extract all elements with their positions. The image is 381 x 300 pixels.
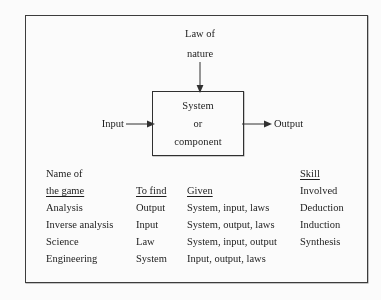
- system-or-component-box: System or component: [152, 91, 244, 156]
- output-arrow-right-icon: [242, 116, 274, 132]
- table-header-row-1: Name of Skill: [46, 165, 356, 182]
- table-row: Science Law System, input, output Synthe…: [46, 233, 356, 250]
- system-box-line-1: System: [153, 100, 243, 111]
- cell-to-find: Output: [136, 199, 165, 216]
- cell-to-find: Law: [136, 233, 155, 250]
- cell-given: Input, output, laws: [187, 250, 266, 267]
- header-to-find: To find: [136, 182, 166, 199]
- cell-given: System, output, laws: [187, 216, 275, 233]
- table-row: Inverse analysis Input System, output, l…: [46, 216, 356, 233]
- cell-skill-involved: Synthesis: [300, 233, 340, 250]
- cell-name-of-the-game: Science: [46, 233, 79, 250]
- cell-to-find: Input: [136, 216, 158, 233]
- law-of-nature-label: Law of nature: [160, 24, 240, 64]
- cell-name-of-the-game: Engineering: [46, 250, 97, 267]
- cell-skill-involved: Induction: [300, 216, 340, 233]
- classification-table: Name of Skill the game To find Given Inv…: [46, 165, 356, 267]
- figure-page: Law of nature Input System or component …: [0, 0, 381, 300]
- header-skill-involved-line-1: Skill: [300, 165, 320, 182]
- header-skill-involved-line-2: Involved: [300, 182, 337, 199]
- input-label: Input: [88, 118, 124, 129]
- cell-given: System, input, output: [187, 233, 277, 250]
- header-name-of-the-game-line-2: the game: [46, 182, 84, 199]
- table-header-row-2: the game To find Given Involved: [46, 182, 356, 199]
- table-row: Analysis Output System, input, laws Dedu…: [46, 199, 356, 216]
- system-box-line-3: component: [153, 136, 243, 147]
- cell-name-of-the-game: Inverse analysis: [46, 216, 113, 233]
- output-label: Output: [274, 118, 303, 129]
- cell-name-of-the-game: Analysis: [46, 199, 83, 216]
- system-box-line-2: or: [153, 118, 243, 129]
- cell-given: System, input, laws: [187, 199, 269, 216]
- law-of-nature-arrow-down-icon: [190, 62, 210, 94]
- header-name-of-the-game-line-1: Name of: [46, 165, 82, 182]
- header-given: Given: [187, 182, 213, 199]
- law-of-nature-line-2: nature: [160, 44, 240, 64]
- table-row: Engineering System Input, output, laws: [46, 250, 356, 267]
- cell-skill-involved: Deduction: [300, 199, 344, 216]
- law-of-nature-line-1: Law of: [160, 24, 240, 44]
- cell-to-find: System: [136, 250, 167, 267]
